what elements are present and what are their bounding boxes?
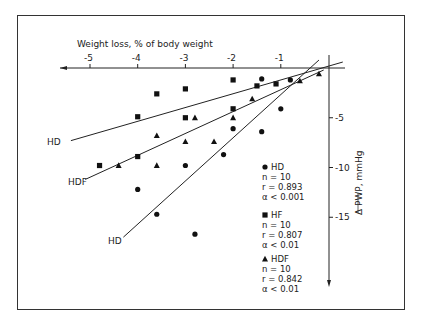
svg-text:α < 0.01: α < 0.01 bbox=[262, 284, 299, 294]
x-tick-label: -5 bbox=[84, 53, 93, 63]
legend-item-hdf: HDFn = 10r = 0.842α < 0.01 bbox=[262, 254, 302, 294]
svg-text:r = 0.893: r = 0.893 bbox=[262, 182, 302, 192]
line-label: HD bbox=[47, 137, 61, 147]
y-tick-label: -5 bbox=[335, 113, 344, 123]
y-axis: -5-10-15 Δ PWP, mmHg bbox=[327, 55, 364, 287]
x-tick-label: -2 bbox=[227, 53, 236, 63]
svg-text:HD: HD bbox=[271, 162, 284, 172]
x-tick-label: -4 bbox=[132, 53, 141, 63]
scatter-chart: -5-4-3-2-1 Weight loss, % of body weight… bbox=[0, 0, 421, 327]
svg-text:r = 0.807: r = 0.807 bbox=[262, 230, 302, 240]
legend-item-hd: HDn = 10r = 0.893α < 0.001 bbox=[262, 162, 304, 202]
svg-text:α < 0.01: α < 0.01 bbox=[262, 240, 299, 250]
line-label: HD bbox=[108, 236, 122, 246]
x-tick-label: -1 bbox=[275, 53, 284, 63]
svg-text:HDF: HDF bbox=[271, 254, 289, 264]
legend: HDn = 10r = 0.893α < 0.001HFn = 10r = 0.… bbox=[262, 162, 304, 294]
x-tick-label: -3 bbox=[179, 53, 188, 63]
svg-text:n = 10: n = 10 bbox=[262, 220, 291, 230]
data-points bbox=[97, 71, 322, 237]
regression-lines: HDHDHDF bbox=[47, 60, 343, 246]
series-hf bbox=[97, 77, 279, 168]
regression-line-hdf bbox=[85, 70, 324, 179]
y-axis-label: Δ PWP, mmHg bbox=[354, 150, 364, 215]
line-label: HDF bbox=[68, 177, 87, 187]
svg-text:HF: HF bbox=[271, 210, 282, 220]
regression-line-hf bbox=[71, 62, 343, 141]
svg-text:n = 10: n = 10 bbox=[262, 172, 291, 182]
x-axis-label: Weight loss, % of body weight bbox=[77, 39, 213, 49]
legend-item-hf: HFn = 10r = 0.807α < 0.01 bbox=[262, 210, 302, 250]
svg-text:n = 10: n = 10 bbox=[262, 264, 291, 274]
svg-text:r = 0.842: r = 0.842 bbox=[262, 274, 302, 284]
x-axis: -5-4-3-2-1 Weight loss, % of body weight bbox=[60, 39, 345, 70]
series-hd bbox=[135, 76, 293, 236]
x-axis-arrow-icon bbox=[60, 66, 67, 70]
y-axis-arrow-icon bbox=[327, 280, 331, 287]
y-tick-label: -10 bbox=[335, 163, 350, 173]
y-tick-label: -15 bbox=[335, 212, 350, 222]
svg-text:α < 0.001: α < 0.001 bbox=[262, 192, 304, 202]
